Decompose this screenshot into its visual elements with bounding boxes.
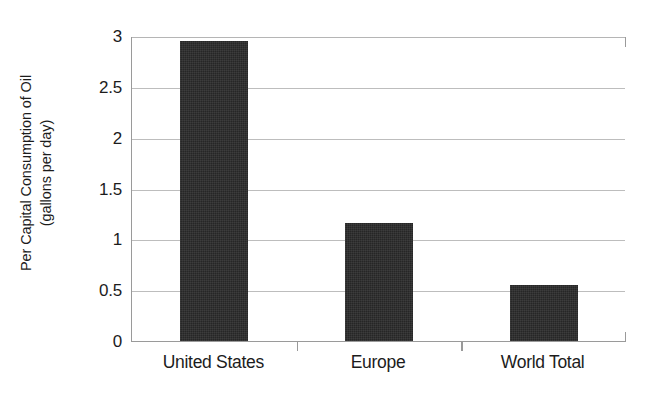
gridline [132,37,625,38]
y-axis-title-line-1: Per Capital Consumption of Oil [16,74,36,270]
bar [180,41,248,341]
y-axis-tick-label: 2 [113,129,122,149]
y-axis-title: Per Capital Consumption of Oil (gallons … [0,0,72,345]
bar [345,223,413,341]
x-axis-tick-label: United States [163,352,264,373]
y-axis-tick-label: 1.5 [99,180,122,200]
x-axis-tick-label: Europe [351,352,406,373]
y-axis-tick-labels: 00.511.522.53 [72,0,126,402]
x-axis-tick [297,342,298,351]
x-axis-tick-labels: United StatesEuropeWorld Total [131,352,625,386]
y-axis-tick-label: 3 [113,27,122,47]
y-axis-tick-label: 0 [113,332,122,352]
y-axis-title-line-2: (gallons per day) [36,74,56,270]
x-axis-tick [461,342,462,351]
x-axis-tick-label: World Total [501,352,585,373]
bar-chart-figure: Per Capital Consumption of Oil (gallons … [0,0,647,402]
axis-end-cap [625,332,626,342]
y-axis-tick-label: 1 [113,230,122,250]
bar [510,285,578,341]
plot-area [131,37,625,342]
axis-end-cap [625,37,626,47]
y-axis-tick-label: 2.5 [99,78,122,98]
y-axis-tick-label: 0.5 [99,281,122,301]
